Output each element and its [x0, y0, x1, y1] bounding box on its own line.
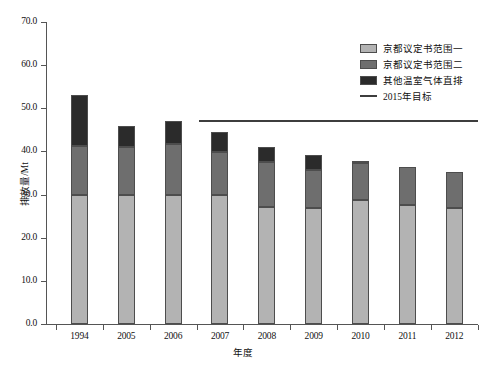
bar-segment — [446, 172, 463, 208]
legend-swatch-icon — [360, 44, 377, 53]
y-axis-tick — [41, 65, 46, 66]
bar-segment — [352, 161, 369, 164]
y-axis-title: 排放量/Mt — [17, 162, 31, 206]
bar-segment — [118, 195, 135, 324]
y-axis-tick — [41, 22, 46, 23]
legend-swatch-icon — [360, 60, 377, 69]
bar-segment — [118, 147, 135, 196]
legend-item-label: 2015年目标 — [383, 89, 432, 103]
y-axis-line — [46, 22, 47, 325]
y-axis-tick-label: 20.0 — [3, 232, 37, 242]
x-axis-tick-label: 2009 — [291, 331, 337, 341]
x-axis-tick-label: 2008 — [244, 331, 290, 341]
bar-segment — [446, 208, 463, 324]
bar-segment — [258, 147, 275, 162]
y-axis-tick — [41, 281, 46, 282]
y-axis-tick-label: 30.0 — [3, 189, 37, 199]
bar-segment — [165, 195, 182, 324]
bar-segment — [352, 163, 369, 200]
x-axis-tick-label: 2010 — [338, 331, 384, 341]
bar-segment — [399, 205, 416, 324]
target-reference-line — [199, 120, 478, 122]
legend-item[interactable]: 其他温室气体直排 — [360, 73, 482, 87]
x-axis-tick — [337, 325, 338, 330]
legend-item-label: 其他温室气体直排 — [383, 73, 463, 87]
x-axis-tick-label: 2006 — [150, 331, 196, 341]
legend-item-label: 京都议定书范围二 — [383, 57, 463, 71]
bar-segment — [258, 207, 275, 324]
emissions-stacked-bar-chart: 排放量/Mt 年度 0.010.020.030.040.050.060.070.… — [0, 0, 485, 368]
x-axis-tick — [384, 325, 385, 330]
x-axis-line — [46, 324, 478, 325]
x-axis-tick-label: 1994 — [56, 331, 102, 341]
y-axis-tick-label: 10.0 — [3, 275, 37, 285]
y-axis-tick-label: 70.0 — [3, 16, 37, 26]
x-axis-tick — [290, 325, 291, 330]
x-axis-tick — [56, 325, 57, 330]
bar-segment — [305, 170, 322, 208]
x-axis-tick-label: 2007 — [197, 331, 243, 341]
legend-line-icon — [360, 95, 377, 97]
legend-item[interactable]: 2015年目标 — [360, 89, 482, 103]
x-axis-tick — [478, 325, 479, 330]
bar-segment — [165, 144, 182, 196]
legend-item[interactable]: 京都议定书范围二 — [360, 57, 482, 71]
bar-segment — [352, 200, 369, 324]
bar-segment — [211, 152, 228, 195]
y-axis-tick-label: 40.0 — [3, 145, 37, 155]
y-axis-tick — [41, 324, 46, 325]
legend-item[interactable]: 京都议定书范围一 — [360, 41, 482, 55]
chart-legend: 京都议定书范围一京都议定书范围二其他温室气体直排2015年目标 — [360, 41, 482, 105]
legend-item-label: 京都议定书范围一 — [383, 41, 463, 55]
bar-segment — [399, 167, 416, 206]
bar-segment — [165, 121, 182, 143]
y-axis-tick-label: 50.0 — [3, 102, 37, 112]
legend-swatch-icon — [360, 76, 377, 85]
bar-segment — [258, 162, 275, 206]
bar-segment — [71, 95, 88, 145]
y-axis-tick — [41, 195, 46, 196]
bar-segment — [71, 195, 88, 324]
x-axis-tick-label: 2005 — [103, 331, 149, 341]
x-axis-title: 年度 — [0, 345, 485, 359]
x-axis-tick — [431, 325, 432, 330]
y-axis-tick-label: 60.0 — [3, 59, 37, 69]
x-axis-tick-label: 2012 — [431, 331, 477, 341]
x-axis-tick — [150, 325, 151, 330]
x-axis-tick — [243, 325, 244, 330]
x-axis-tick-label: 2011 — [384, 331, 430, 341]
bar-segment — [305, 208, 322, 324]
bar-segment — [71, 146, 88, 195]
y-axis-tick — [41, 108, 46, 109]
y-axis-tick-label: 0.0 — [3, 318, 37, 328]
bar-segment — [118, 126, 135, 147]
y-axis-tick — [41, 151, 46, 152]
y-axis-tick — [41, 238, 46, 239]
bar-segment — [211, 132, 228, 151]
x-axis-tick — [197, 325, 198, 330]
x-axis-tick — [103, 325, 104, 330]
bar-segment — [305, 155, 322, 170]
bar-segment — [211, 195, 228, 324]
